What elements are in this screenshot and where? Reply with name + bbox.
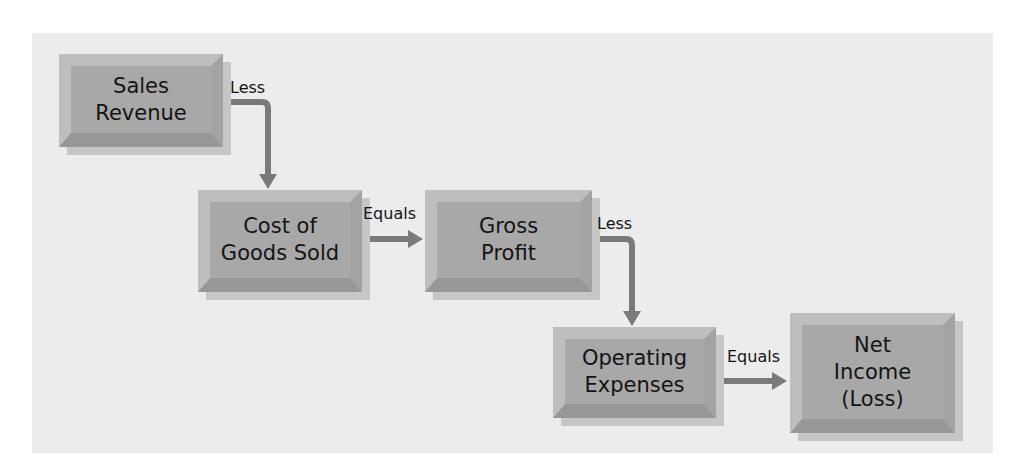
edge-label-equals: Equals — [363, 204, 416, 223]
node-cost-of-goods-sold: Cost of Goods Sold — [198, 190, 362, 292]
box-bevel — [943, 313, 955, 433]
box-bevel — [198, 278, 362, 292]
box-face: Cost of Goods Sold — [210, 202, 350, 278]
edge-label-less: Less — [597, 214, 632, 233]
box-face: Sales Revenue — [71, 66, 211, 133]
edge-label-equals: Equals — [727, 347, 780, 366]
edge-label-less: Less — [230, 78, 265, 97]
box-bevel — [553, 404, 716, 418]
box-bevel — [350, 190, 362, 292]
node-label-line: Net — [834, 332, 911, 359]
node-gross-profit: Gross Profit — [425, 190, 592, 292]
node-label-line: Sales — [95, 73, 186, 100]
node-label-line: Expenses — [582, 372, 687, 399]
node-label-line: Goods Sold — [221, 240, 339, 267]
node-label-line: Operating — [582, 345, 687, 372]
box-face: Gross Profit — [437, 202, 580, 278]
box-face: Net Income (Loss) — [802, 325, 943, 419]
box-bevel — [580, 190, 592, 292]
node-label-line: Income — [834, 359, 911, 386]
box-bevel — [425, 278, 592, 292]
box-bevel — [211, 54, 223, 147]
arrow-cogs-to-gross-profit — [363, 230, 423, 248]
box-bevel — [704, 327, 716, 418]
box-face: Operating Expenses — [565, 339, 704, 404]
box-bevel — [59, 133, 223, 147]
node-label-line: Revenue — [95, 100, 186, 127]
node-label-line: Gross — [479, 213, 538, 240]
node-label-line: Cost of — [221, 213, 339, 240]
arrow-sales-to-cogs — [224, 102, 277, 189]
box-bevel — [790, 419, 955, 433]
node-sales-revenue: Sales Revenue — [59, 54, 223, 147]
node-net-income: Net Income (Loss) — [790, 313, 955, 433]
node-label-line: (Loss) — [834, 386, 911, 413]
arrow-opex-to-net-income — [717, 372, 787, 390]
node-operating-expenses: Operating Expenses — [553, 327, 716, 418]
node-label-line: Profit — [479, 240, 538, 267]
